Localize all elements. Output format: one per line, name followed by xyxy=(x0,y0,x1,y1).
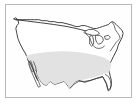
lake-ontario-path xyxy=(104,35,110,39)
us-map-graphic[interactable] xyxy=(6,5,131,97)
shaded-region-path xyxy=(26,51,112,88)
map-thumbnail[interactable]: United States Map xyxy=(0,0,138,108)
lake-michigan-path xyxy=(90,35,94,46)
map-frame[interactable] xyxy=(5,4,132,98)
